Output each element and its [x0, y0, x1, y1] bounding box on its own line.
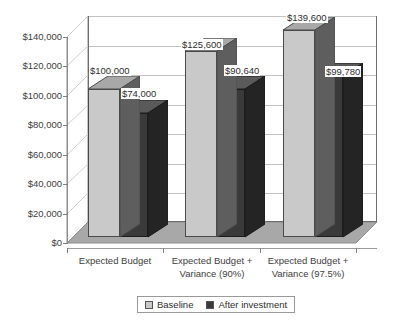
- y-axis-labels: $140,000 $120,000 $100,000 $80,000 $60,0…: [0, 0, 62, 323]
- x-tick-1: [163, 248, 164, 253]
- legend-swatch-after-investment-icon: [206, 301, 214, 309]
- y-tick-label-140000: $140,000: [22, 32, 62, 42]
- legend-label-after-investment: After investment: [218, 300, 287, 310]
- y-tick-mark-60000: [63, 155, 68, 156]
- y-tick-label-60000: $60,000: [28, 150, 62, 160]
- x-tick-3: [356, 248, 357, 253]
- x-category-label-0: Expected Budget: [62, 255, 168, 268]
- y-tick-mark-40000: [63, 184, 68, 185]
- y-tick-label-40000: $40,000: [28, 179, 62, 189]
- data-label-after-investment-3: $99,780: [325, 66, 361, 77]
- x-category-label-2: Expected Budget + Variance (97.5%): [255, 255, 361, 280]
- y-tick-label-100000: $100,000: [22, 91, 62, 101]
- data-label-baseline-3: $139,600: [286, 12, 328, 23]
- y-axis-line: [67, 37, 68, 244]
- y-tick-mark-120000: [63, 66, 68, 67]
- bar-baseline-3: [283, 17, 335, 245]
- legend-label-baseline: Baseline: [157, 300, 193, 310]
- y-tick-mark-140000: [63, 37, 68, 38]
- x-tick-2: [260, 248, 261, 253]
- legend-entry-after-investment[interactable]: After investment: [206, 300, 287, 310]
- data-label-after-investment-1: $74,000: [121, 88, 157, 99]
- y-tick-label-20000: $20,000: [28, 209, 62, 219]
- x-tick-0: [67, 248, 68, 253]
- y-tick-label-120000: $120,000: [22, 61, 62, 71]
- y-tick-mark-20000: [63, 214, 68, 215]
- bar-baseline-1: [88, 76, 140, 245]
- y-tick-label-80000: $80,000: [28, 120, 62, 130]
- chart-legend: Baseline After investment: [137, 296, 295, 313]
- y-tick-mark-0: [63, 243, 68, 244]
- data-label-baseline-2: $125,600: [181, 39, 223, 50]
- legend-entry-baseline[interactable]: Baseline: [145, 300, 193, 310]
- x-axis-line: [67, 248, 377, 249]
- data-label-after-investment-2: $90,640: [224, 65, 260, 76]
- data-label-baseline-1: $100,000: [89, 65, 131, 76]
- x-category-label-1: Expected Budget + Variance (90%): [159, 255, 265, 280]
- y-tick-label-0: $0: [51, 238, 62, 248]
- legend-swatch-baseline-icon: [145, 301, 153, 309]
- y-tick-mark-80000: [63, 125, 68, 126]
- bar-chart: $140,000 $120,000 $100,000 $80,000 $60,0…: [0, 0, 406, 323]
- y-tick-mark-100000: [63, 96, 68, 97]
